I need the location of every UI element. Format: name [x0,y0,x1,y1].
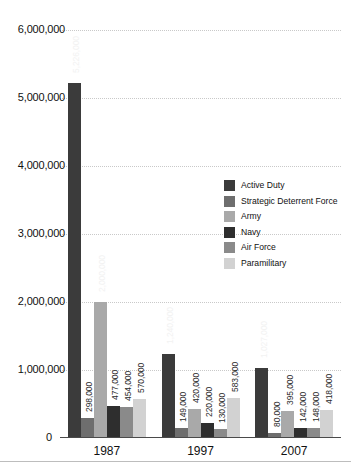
bar[interactable] [188,409,201,438]
y-axis-zero-label: 0 [0,431,52,443]
legend-swatch-icon [224,211,235,222]
bar-value-label: 583,000 [231,362,240,392]
y-axis-tick-label: 1,000,000 [0,364,65,375]
x-axis-labels: 198719972007 [60,444,341,458]
bar-group-bars: 5,226,000298,0002,000,000477,000454,0005… [68,30,146,438]
y-axis-tick-label: 5,000,000 [0,92,65,103]
legend-item[interactable]: Air Force [224,242,337,253]
legend-swatch-icon [224,242,235,253]
bar[interactable] [320,410,333,438]
bar-value-label: 570,000 [137,363,146,393]
bar-column[interactable]: 2,000,000 [94,30,107,438]
y-axis-tick-label: 4,000,000 [0,160,65,171]
legend-label: Active Duty [241,181,284,190]
bar[interactable] [81,418,94,438]
bar-column[interactable]: 5,226,000 [68,30,81,438]
legend-item[interactable]: Strategic Deterrent Force [224,196,337,207]
legend-item[interactable]: Army [224,211,337,222]
bar[interactable] [201,423,214,438]
bar-column[interactable]: 298,000 [81,30,94,438]
legend-swatch-icon [224,258,235,269]
footer-divider [0,461,351,462]
x-axis-label: 2007 [247,444,341,458]
legend-label: Air Force [241,243,276,252]
bar[interactable] [227,398,240,438]
bar-column[interactable]: 454,000 [120,30,133,438]
bar[interactable] [94,302,107,438]
chart-legend: Active DutyStrategic Deterrent ForceArmy… [224,180,337,269]
bar[interactable] [255,368,268,438]
bar-column[interactable]: 1,240,000 [162,30,175,438]
legend-item[interactable]: Active Duty [224,180,337,191]
bar[interactable] [120,407,133,438]
bar-column[interactable]: 149,000 [175,30,188,438]
bar-value-label: 418,000 [325,374,334,404]
legend-label: Army [241,212,261,221]
x-axis-label: 1997 [154,444,248,458]
legend-label: Strategic Deterrent Force [241,197,337,206]
bar-column[interactable]: 220,000 [201,30,214,438]
y-axis-tick-label: 2,000,000 [0,296,65,307]
legend-item[interactable]: Navy [224,227,337,238]
bar-column[interactable]: 477,000 [107,30,120,438]
bar[interactable] [133,399,146,438]
bar[interactable] [68,83,81,438]
legend-label: Navy [241,228,261,237]
bar[interactable] [281,411,294,438]
bar-column[interactable]: 570,000 [133,30,146,438]
y-axis-tick-label: 6,000,000 [0,24,65,35]
y-axis-tick-label: 3,000,000 [0,228,65,239]
legend-label: Paramilitary [241,259,286,268]
legend-swatch-icon [224,196,235,207]
x-axis-line [60,437,341,438]
bar-group: 5,226,000298,0002,000,000477,000454,0005… [60,30,154,438]
legend-item[interactable]: Paramilitary [224,258,337,269]
legend-swatch-icon [224,180,235,191]
bar[interactable] [107,406,120,438]
x-axis-label: 1987 [60,444,154,458]
bar-chart: 5,226,000298,0002,000,000477,000454,0005… [0,0,351,468]
bar[interactable] [162,354,175,438]
legend-swatch-icon [224,227,235,238]
bar-column[interactable]: 420,000 [188,30,201,438]
